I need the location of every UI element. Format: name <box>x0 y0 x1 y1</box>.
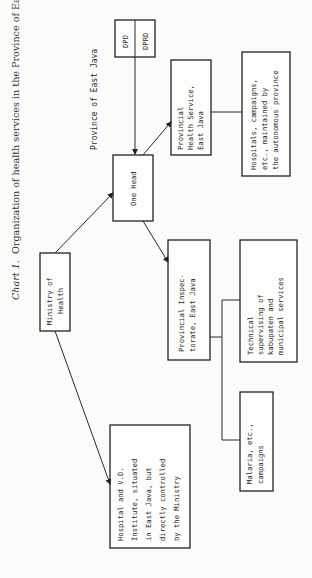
svg-text:Technical: Technical <box>246 316 255 355</box>
edge-inspectorate-to-malaria <box>222 337 240 440</box>
svg-text:campaigns: campaigns <box>256 445 265 484</box>
svg-text:etc., maintained by: etc., maintained by <box>260 87 269 170</box>
chart-caption: Chart 1. Organization of health services… <box>10 0 21 300</box>
ministry-of-health-box: Ministry of Health <box>40 253 70 331</box>
edge-inspectorate-to-subunits <box>210 300 240 337</box>
svg-text:East Java: East Java <box>196 111 205 150</box>
svg-text:Institute, situated: Institute, situated <box>130 459 139 541</box>
svg-text:Provincial Inspec-: Provincial Inspec- <box>177 274 186 352</box>
svg-text:supervising of: supervising of <box>256 294 265 355</box>
svg-text:Malaria, etc.,: Malaria, etc., <box>245 423 254 484</box>
edge-one-head-to-inspectorate <box>143 221 168 262</box>
svg-text:DPRD: DPRD <box>141 33 150 50</box>
svg-text:directly controlled: directly controlled <box>158 459 167 541</box>
technical-supervising-box: Technical supervising of kabupaten and m… <box>240 240 297 362</box>
svg-text:Ministry of: Ministry of <box>45 277 54 325</box>
svg-text:One Head: One Head <box>129 171 138 206</box>
edge-ministry-to-one-head <box>55 193 113 253</box>
svg-text:torate, East Java: torate, East Java <box>188 278 197 352</box>
one-head-box: One Head <box>113 155 153 221</box>
malaria-campaigns-box: Malaria, etc., campaigns <box>240 392 273 491</box>
svg-text:Provincial: Provincial <box>176 107 185 150</box>
provincial-inspectorate-box: Provincial Inspec- torate, East Java <box>168 240 210 360</box>
svg-text:Hospital and V.D.: Hospital and V.D. <box>116 467 125 541</box>
svg-text:kabupaten and: kabupaten and <box>266 299 275 355</box>
svg-text:Health Service,: Health Service, <box>186 85 195 150</box>
svg-text:municipal services: municipal services <box>276 277 285 355</box>
hospitals-campaigns-box: Hospitals, campaigns, etc., maintained b… <box>242 52 290 176</box>
svg-text:the autonomous province: the autonomous province <box>271 70 280 170</box>
edge-ministry-to-hospital-vd <box>55 331 110 484</box>
svg-text:in East Java, but: in East Java, but <box>144 467 153 541</box>
region-label: Province of East Java <box>90 49 99 150</box>
org-chart: Chart 1. Organization of health services… <box>0 0 312 578</box>
edge-one-head-to-health-service <box>143 122 171 155</box>
svg-text:Health: Health <box>56 288 65 314</box>
svg-text:by the Ministry: by the Ministry <box>172 475 181 541</box>
dpd-dprd-box: DPD DPRD <box>115 20 155 57</box>
provincial-health-service-box: Provincial Health Service, East Java <box>171 60 211 155</box>
svg-text:DPD: DPD <box>121 35 130 48</box>
svg-text:Hospitals, campaigns,: Hospitals, campaigns, <box>249 79 258 170</box>
hospital-vd-institute-box: Hospital and V.D. Institute, situated in… <box>110 425 190 548</box>
